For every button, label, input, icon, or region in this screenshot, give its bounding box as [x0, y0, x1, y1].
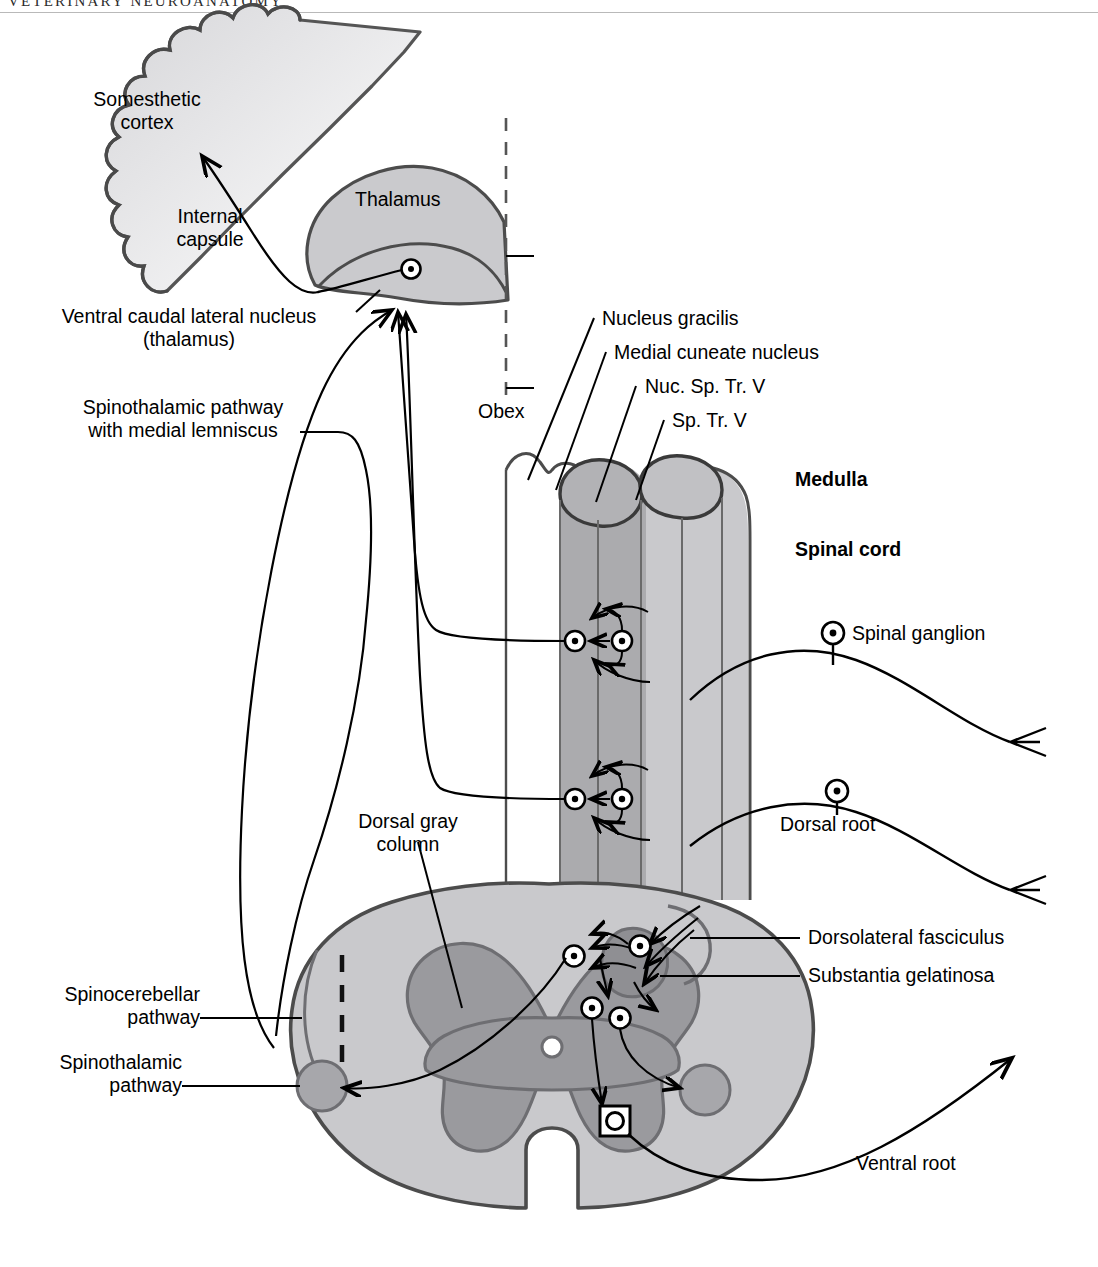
medulla-columns-shape	[506, 454, 750, 900]
spinal-cord-cross-section	[291, 883, 814, 1208]
label-sp-tr-v: Sp. Tr. V	[672, 409, 747, 432]
label-spinocerebellar-pathway: Spinocerebellar pathway	[18, 983, 200, 1029]
label-internal-capsule: Internal capsule	[140, 205, 280, 251]
label-nucleus-gracilis: Nucleus gracilis	[602, 307, 739, 330]
label-medial-cuneate-nucleus: Medial cuneate nucleus	[614, 341, 819, 364]
spinothalamic-leader-curve	[338, 432, 371, 620]
label-spinothalamic-pathway: Spinothalamic pathway	[18, 1051, 182, 1097]
label-nuc-sp-tr-v: Nuc. Sp. Tr. V	[645, 375, 765, 398]
label-obex: Obex	[478, 400, 525, 423]
label-spinothalamic-with-medial-lemniscus: Spinothalamic pathway with medial lemnis…	[58, 396, 308, 442]
label-somesthetic-cortex: Somesthetic cortex	[52, 88, 242, 134]
label-medulla: Medulla	[795, 468, 868, 491]
label-ventral-caudal-lateral-nucleus: Ventral caudal lateral nucleus (thalamus…	[24, 305, 354, 351]
label-spinal-ganglion: Spinal ganglion	[852, 622, 985, 645]
figure-canvas: Somesthetic cortex Internal capsule Thal…	[0, 0, 1098, 1267]
label-thalamus: Thalamus	[355, 188, 441, 211]
label-spinal-cord: Spinal cord	[795, 538, 901, 561]
label-substantia-gelatinosa: Substantia gelatinosa	[808, 964, 994, 987]
label-dorsal-root: Dorsal root	[780, 813, 875, 836]
label-ventral-root: Ventral root	[856, 1152, 956, 1175]
label-dorsolateral-fasciculus: Dorsolateral fasciculus	[808, 926, 1004, 949]
spinal-ganglion-symbols	[822, 622, 848, 815]
label-dorsal-gray-column: Dorsal gray column	[318, 810, 498, 856]
